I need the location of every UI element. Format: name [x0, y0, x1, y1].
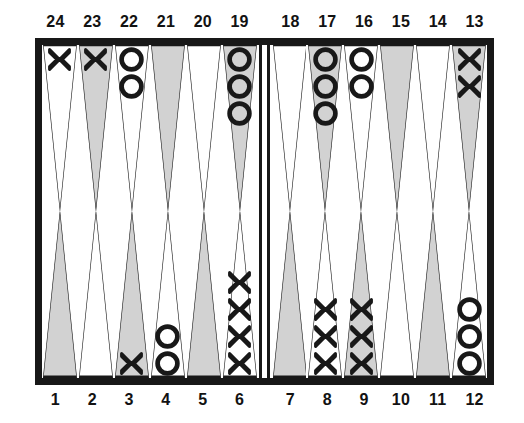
checker-stack-point-24[interactable]: X	[42, 46, 78, 73]
checker-o-icon[interactable]: O	[226, 73, 253, 100]
point-24[interactable]: X	[42, 45, 78, 212]
checker-x-icon[interactable]: X	[226, 269, 253, 296]
board-playing-surface: XXOOOOO OOOOOXX XOOXXXX XXXXXXOOO	[42, 45, 487, 378]
point-label-12: 12	[456, 388, 493, 412]
checker-stack-point-19[interactable]: OOO	[222, 46, 258, 127]
checker-x-icon[interactable]: X	[348, 296, 375, 323]
point-label-2: 2	[74, 388, 111, 412]
point-label-5: 5	[184, 388, 221, 412]
point-5[interactable]	[186, 212, 222, 379]
checker-stack-point-22[interactable]: OO	[114, 46, 150, 100]
point-20[interactable]	[186, 45, 222, 212]
top-right-label-group: 18 17 16 15 14 13	[272, 10, 493, 34]
checker-stack-point-8[interactable]: XXX	[307, 296, 343, 377]
checker-x-icon[interactable]: X	[118, 350, 145, 377]
point-17[interactable]: OOO	[307, 45, 343, 212]
checker-o-icon[interactable]: O	[226, 100, 253, 127]
bottom-left-quadrant: XOOXXXX	[42, 212, 265, 379]
point-label-18: 18	[272, 10, 309, 34]
point-label-16: 16	[346, 10, 383, 34]
checker-stack-point-4[interactable]: OO	[150, 323, 186, 377]
checker-stack-point-6[interactable]: XXXX	[222, 269, 258, 377]
point-triangle-14	[416, 45, 450, 212]
point-22[interactable]: OO	[114, 45, 150, 212]
point-label-9: 9	[346, 388, 383, 412]
checker-o-icon[interactable]: O	[312, 46, 339, 73]
checker-x-icon[interactable]: X	[312, 350, 339, 377]
point-10[interactable]	[379, 212, 415, 379]
point-11[interactable]	[415, 212, 451, 379]
checker-x-icon[interactable]: X	[226, 323, 253, 350]
checker-o-icon[interactable]: O	[118, 46, 145, 73]
point-label-19: 19	[221, 10, 258, 34]
point-13[interactable]: XX	[451, 45, 487, 212]
center-bar	[259, 45, 270, 378]
checker-stack-point-9[interactable]: XXX	[343, 296, 379, 377]
point-triangle-1	[43, 212, 77, 379]
checker-x-icon[interactable]: X	[226, 296, 253, 323]
checker-x-icon[interactable]: X	[312, 323, 339, 350]
checker-x-icon[interactable]: X	[348, 350, 375, 377]
checker-stack-point-12[interactable]: OOO	[451, 296, 487, 377]
point-18[interactable]	[272, 45, 308, 212]
point-triangle-7	[273, 212, 307, 379]
point-triangle-18	[273, 45, 307, 212]
checker-o-icon[interactable]: O	[348, 46, 375, 73]
checker-o-icon[interactable]: O	[118, 73, 145, 100]
point-9[interactable]: XXX	[343, 212, 379, 379]
checker-stack-point-13[interactable]: XX	[451, 46, 487, 100]
checker-o-icon[interactable]: O	[226, 46, 253, 73]
point-label-21: 21	[147, 10, 184, 34]
point-label-7: 7	[272, 388, 309, 412]
checker-o-icon[interactable]: O	[348, 73, 375, 100]
point-8[interactable]: XXX	[307, 212, 343, 379]
bottom-left-label-group: 1 2 3 4 5 6	[37, 388, 258, 412]
point-14[interactable]	[415, 45, 451, 212]
point-label-8: 8	[309, 388, 346, 412]
checker-x-icon[interactable]: X	[226, 350, 253, 377]
checker-o-icon[interactable]: O	[456, 350, 483, 377]
point-15[interactable]	[379, 45, 415, 212]
point-triangle-21	[151, 45, 185, 212]
checker-x-icon[interactable]: X	[456, 46, 483, 73]
checker-x-icon[interactable]: X	[312, 296, 339, 323]
point-label-4: 4	[147, 388, 184, 412]
point-label-24: 24	[37, 10, 74, 34]
point-1[interactable]	[42, 212, 78, 379]
point-4[interactable]: OO	[150, 212, 186, 379]
point-triangle-11	[416, 212, 450, 379]
checker-stack-point-23[interactable]: X	[78, 46, 114, 73]
checker-x-icon[interactable]: X	[348, 323, 375, 350]
checker-o-icon[interactable]: O	[154, 350, 181, 377]
point-2[interactable]	[78, 212, 114, 379]
checker-stack-point-3[interactable]: X	[114, 350, 150, 377]
checker-stack-point-16[interactable]: OO	[343, 46, 379, 100]
board-frame: XXOOOOO OOOOOXX XOOXXXX XXXXXXOOO	[35, 38, 494, 385]
point-label-22: 22	[111, 10, 148, 34]
point-7[interactable]	[272, 212, 308, 379]
top-left-quadrant: XXOOOOO	[42, 45, 265, 212]
point-12[interactable]: OOO	[451, 212, 487, 379]
top-right-quadrant: OOOOOXX	[265, 45, 488, 212]
checker-x-icon[interactable]: X	[46, 46, 73, 73]
checker-stack-point-17[interactable]: OOO	[307, 46, 343, 127]
point-triangle-5	[187, 212, 221, 379]
checker-x-icon[interactable]: X	[456, 73, 483, 100]
point-6[interactable]: XXXX	[222, 212, 258, 379]
point-3[interactable]: X	[114, 212, 150, 379]
checker-x-icon[interactable]: X	[82, 46, 109, 73]
checker-o-icon[interactable]: O	[154, 323, 181, 350]
top-left-label-group: 24 23 22 21 20 19	[37, 10, 258, 34]
point-19[interactable]: OOO	[222, 45, 258, 212]
point-triangle-20	[187, 45, 221, 212]
checker-o-icon[interactable]: O	[456, 323, 483, 350]
checker-o-icon[interactable]: O	[312, 100, 339, 127]
point-21[interactable]	[150, 45, 186, 212]
checker-o-icon[interactable]: O	[456, 296, 483, 323]
checker-o-icon[interactable]: O	[312, 73, 339, 100]
point-16[interactable]: OO	[343, 45, 379, 212]
point-triangle-10	[380, 212, 414, 379]
point-label-17: 17	[309, 10, 346, 34]
bottom-point-number-row: 1 2 3 4 5 6 7 8 9 10 11 12	[37, 388, 493, 412]
point-23[interactable]: X	[78, 45, 114, 212]
